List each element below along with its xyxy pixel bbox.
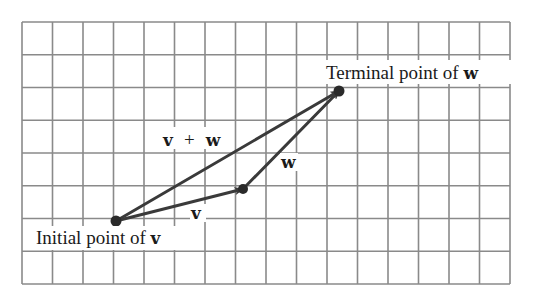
vector-v (116, 189, 243, 221)
terminal-point-label: Terminal point of w (326, 62, 478, 83)
terminal-point-of-w (334, 86, 345, 97)
v-vector-label: v (190, 203, 202, 223)
terminal-label-prefix: Terminal point of (326, 62, 463, 83)
initial-point-of-v (111, 216, 122, 227)
vector-addition-diagram: v + w w v Terminal point of w Initial po… (0, 0, 542, 305)
terminal-label-var: w (462, 63, 478, 83)
sum-label-plus: + (184, 129, 195, 150)
initial-point-label: Initial point of v (36, 227, 162, 248)
sum-label-v: v (162, 130, 174, 150)
initial-label-prefix: Initial point of (36, 227, 151, 248)
w-vector-label: w (280, 152, 296, 172)
sum-label-w: w (205, 130, 221, 150)
terminal-point-of-v (238, 184, 248, 194)
sum-vector-label: v + w (162, 129, 221, 150)
vector-v-plus-w (116, 91, 339, 221)
initial-label-var: v (150, 228, 162, 248)
